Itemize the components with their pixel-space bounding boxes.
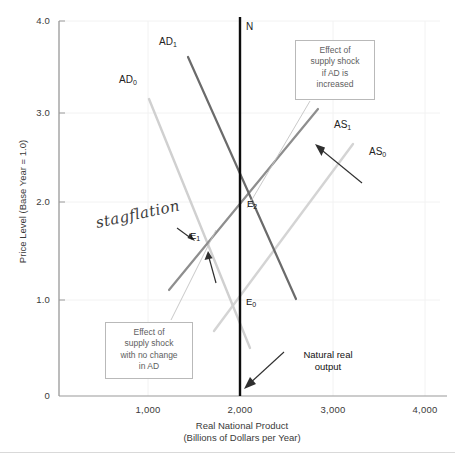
y-tick-4: 4.0 [14,15,50,26]
callout-bottom-line2: supply shock [108,338,190,349]
point-label-e0-sub: 0 [252,301,256,308]
curve-label-as0-text: AS [369,146,382,157]
curve-label-as0-sub: 0 [382,151,386,158]
curve-label-ad1-sub: 1 [173,41,177,48]
y-tick-3: 3.0 [14,107,50,118]
natural-note-line2: output [288,361,368,373]
curve-label-as1-text: AS [334,119,347,130]
callout-top-line1: Effect of [298,45,372,56]
natural-real-output-note: Natural real output [288,349,368,373]
natural-note-line1: Natural real [288,349,368,361]
point-label-e1: E1 [190,230,200,241]
arrow-supply-shock-no-ad [205,251,217,283]
bottom-divider [0,452,455,453]
x-tick-1000: 1,000 [118,404,178,415]
curve-as0 [214,144,353,331]
curve-as1 [169,109,318,290]
point-label-e0: E0 [246,296,256,307]
point-label-e2-sub: 2 [253,203,257,210]
curve-label-as0: AS0 [369,146,386,157]
callout-top-line3: if AD is [298,68,372,79]
x-axis-title-line1: Real National Product [59,420,425,432]
leader-line-top-callout [247,101,310,208]
economics-chart-figure: 4.0 3.0 2.0 1.0 0 1,000 2,000 3,000 4,00… [0,0,455,461]
curve-label-ad0-sub: 0 [133,79,137,86]
y-tick-0: 0 [14,390,50,401]
callout-bottom-line1: Effect of [108,327,190,338]
curve-label-n: N [246,21,253,32]
callout-bottom-line4: in AD [108,361,190,372]
x-tick-3000: 3,000 [303,404,363,415]
curve-label-as1-sub: 1 [347,124,351,131]
arrow-natural-real-output [244,352,284,389]
y-axis-title: Price Level (Base Year = 1.0) [17,122,28,282]
curve-label-ad0-text: AD [119,74,133,85]
curve-label-as1: AS1 [334,119,351,130]
callout-bottom-line3: with no change [108,350,190,361]
curve-label-ad0: AD0 [119,74,137,85]
chart-canvas [0,0,455,461]
x-tick-4000: 4,000 [395,404,455,415]
callout-supply-shock-ad-increased: Effect of supply shock if AD is increase… [295,40,375,100]
x-tick-2000: 2,000 [210,404,270,415]
callout-top-line4: increased [298,79,372,90]
curve-ad1 [188,57,296,299]
curve-label-ad1-text: AD [159,36,173,47]
x-axis-title: Real National Product (Billions of Dolla… [59,420,425,444]
arrow-supply-shock-ad-increased [315,144,362,183]
point-label-e1-sub: 1 [196,235,200,242]
curve-label-ad1: AD1 [159,36,177,47]
y-tick-1: 1.0 [14,294,50,305]
x-axis-title-line2: (Billions of Dollars per Year) [59,432,425,444]
callout-top-line2: supply shock [298,56,372,67]
curve-ad0 [149,99,250,348]
callout-supply-shock-no-ad-change: Effect of supply shock with no change in… [105,322,193,379]
point-label-e2: E2 [247,198,257,209]
leader-line-bottom-callout [171,230,216,320]
